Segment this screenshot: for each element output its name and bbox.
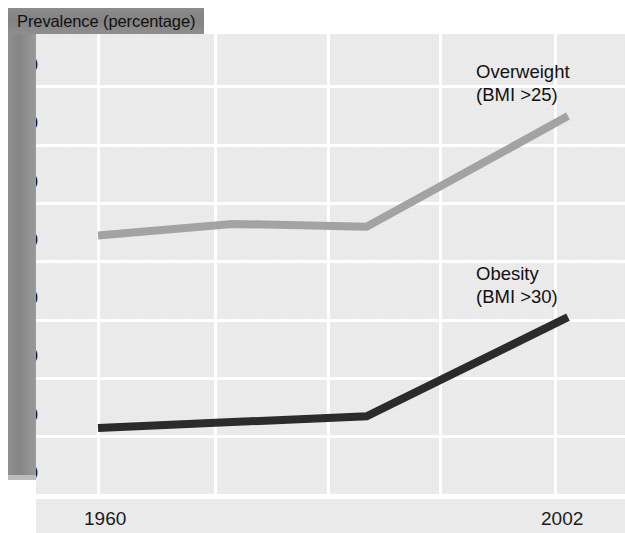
x-axis-tick-label: 2002 (541, 508, 583, 530)
x-axis-area: 19602002 (36, 496, 625, 533)
page-margin-top (0, 0, 625, 8)
plot-area: Overweight (BMI >25) Obesity (BMI >30) 0… (36, 34, 625, 496)
series-line-overweight (98, 116, 568, 236)
page-margin-left (0, 0, 8, 533)
series-label-overweight: Overweight (BMI >25) (476, 60, 570, 106)
y-axis-spine (8, 8, 36, 476)
chart-title: Prevalence (percentage) (8, 8, 204, 34)
series-label-obesity: Obesity (BMI >30) (476, 262, 558, 308)
series-line-obesity (98, 317, 568, 428)
x-axis-tick-label: 1960 (84, 508, 126, 530)
chart-figure: Prevalence (percentage) Overweight (BMI … (0, 0, 625, 533)
